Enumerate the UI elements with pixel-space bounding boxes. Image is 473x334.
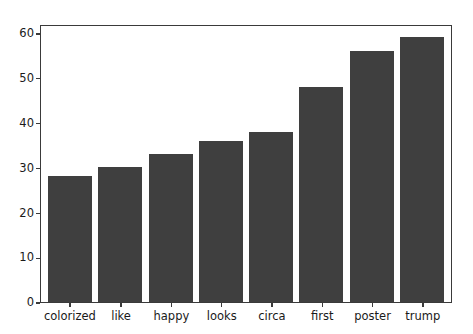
x-axis-tick: happy <box>146 303 196 334</box>
x-tick-group: colorizedlikehappylookscircafirstpostert… <box>40 303 452 334</box>
x-axis-tick-mark <box>221 303 222 307</box>
x-axis-tick-label: happy <box>154 311 190 323</box>
x-axis-tick-mark <box>69 303 70 307</box>
bars-layer <box>41 26 451 302</box>
x-axis-tick: looks <box>197 303 247 334</box>
x-axis-tick-mark <box>271 303 272 307</box>
bar[interactable] <box>149 154 193 302</box>
chart-figure: 0102030405060 colorizedlikehappylookscir… <box>0 0 473 334</box>
x-axis-tick-label: circa <box>258 311 285 323</box>
x-axis-tick: trump <box>398 303 448 334</box>
x-axis-tick: colorized <box>44 303 96 334</box>
x-axis: colorizedlikehappylookscircafirstpostert… <box>40 303 452 334</box>
y-axis: 0102030405060 <box>0 25 40 303</box>
bar-slot <box>196 26 246 302</box>
x-axis-tick-label: first <box>311 311 333 323</box>
x-axis-tick-label: trump <box>405 311 440 323</box>
x-axis-tick-mark <box>120 303 121 307</box>
x-axis-tick: first <box>297 303 347 334</box>
x-axis-tick-mark <box>422 303 423 307</box>
x-axis-tick: circa <box>247 303 297 334</box>
bar-slot <box>397 26 447 302</box>
bar-slot <box>347 26 397 302</box>
x-axis-tick-label: colorized <box>44 311 96 323</box>
bar-slot <box>146 26 196 302</box>
bar-slot <box>246 26 296 302</box>
x-axis-tick-label: looks <box>207 311 237 323</box>
x-axis-tick-mark <box>171 303 172 307</box>
x-axis-tick-label: like <box>111 311 131 323</box>
bar[interactable] <box>249 132 293 302</box>
plot-area <box>40 25 452 303</box>
bar-slot <box>296 26 346 302</box>
x-axis-tick-mark <box>322 303 323 307</box>
bar[interactable] <box>199 141 243 302</box>
bar[interactable] <box>400 37 444 302</box>
bar[interactable] <box>299 87 343 302</box>
bar-slot <box>45 26 95 302</box>
bar-slot <box>95 26 145 302</box>
x-axis-tick: like <box>96 303 146 334</box>
x-axis-tick-mark <box>372 303 373 307</box>
bar[interactable] <box>98 167 142 302</box>
bar[interactable] <box>350 51 394 302</box>
x-axis-tick: poster <box>347 303 397 334</box>
x-axis-tick-label: poster <box>354 311 391 323</box>
bar[interactable] <box>48 176 92 302</box>
